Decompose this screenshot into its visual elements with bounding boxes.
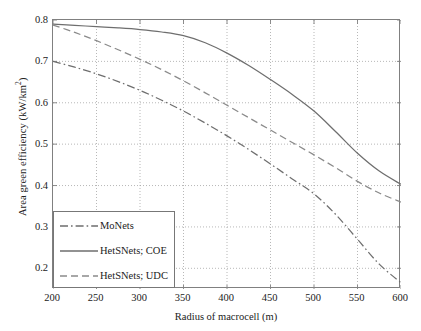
legend-item-label: HetSNets; COE	[100, 245, 167, 256]
y-axis-tick-label: 0.7	[22, 55, 48, 66]
y-axis-tick-label: 0.5	[22, 138, 48, 149]
chart-legend: MoNetsHetSNets; COEHetSNets; UDC	[53, 211, 175, 288]
chart-figure: Area green efficiency (kW/km2) 0.20.30.4…	[0, 0, 421, 331]
y-axis-tick-label: 0.4	[22, 179, 48, 190]
y-axis-tick-labels: 0.20.30.40.50.60.70.8	[18, 0, 48, 331]
x-axis-title: Radius of macrocell (m)	[52, 311, 400, 322]
y-axis-tick-label: 0.6	[22, 96, 48, 107]
x-axis-tick-label: 400	[206, 292, 246, 303]
y-axis-tick-label: 0.8	[22, 14, 48, 25]
x-axis-tick-label: 600	[380, 292, 420, 303]
legend-line-sample	[59, 245, 99, 257]
legend-line-sample	[59, 270, 99, 282]
legend-item[interactable]: HetSNets; COE	[54, 238, 174, 263]
legend-item-label: MoNets	[100, 220, 134, 231]
x-axis-tick-label: 550	[337, 292, 377, 303]
x-axis-tick-label: 300	[119, 292, 159, 303]
x-axis-tick-label: 200	[32, 292, 72, 303]
x-axis-tick-label: 500	[293, 292, 333, 303]
legend-item[interactable]: MoNets	[54, 213, 174, 238]
legend-line-sample	[59, 220, 99, 232]
y-axis-tick-label: 0.3	[22, 220, 48, 231]
legend-item[interactable]: HetSNets; UDC	[54, 263, 174, 288]
x-axis-tick-label: 450	[250, 292, 290, 303]
y-axis-tick-label: 0.2	[22, 262, 48, 273]
x-axis-tick-label: 250	[76, 292, 116, 303]
x-axis-tick-label: 350	[163, 292, 203, 303]
legend-item-label: HetSNets; UDC	[100, 270, 168, 281]
